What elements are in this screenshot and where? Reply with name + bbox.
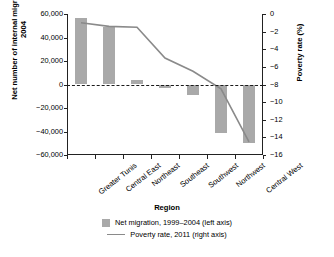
y-tick-mark-right <box>263 32 266 33</box>
y-tick-label-left: 0 <box>15 80 63 89</box>
y-tick-mark-right <box>263 120 266 121</box>
chart-legend: Net migration, 1999–2004 (left axis) Pov… <box>0 218 334 239</box>
x-tick-label: Southwest <box>207 161 240 190</box>
legend-item-net-migration: Net migration, 1999–2004 (left axis) <box>102 218 232 227</box>
y-tick-label-right: −16 <box>270 150 300 159</box>
y-tick-mark-right <box>263 85 266 86</box>
y-tick-label-right: −8 <box>270 80 300 89</box>
y-tick-label-right: −4 <box>270 44 300 53</box>
y-tick-label-right: −12 <box>270 115 300 124</box>
y-tick-mark-right <box>263 49 266 50</box>
poverty-rate-line <box>81 23 249 142</box>
legend-item-poverty-rate: Poverty rate, 2011 (right axis) <box>107 230 226 239</box>
y-tick-label-right: −6 <box>270 62 300 71</box>
x-tick-mark <box>235 155 236 159</box>
x-tick-mark <box>263 155 264 159</box>
y-tick-label-left: 40,000 <box>15 33 63 42</box>
line-swatch-icon <box>107 234 125 235</box>
x-tick-mark <box>207 155 208 159</box>
y-tick-mark-right <box>263 102 266 103</box>
y-tick-mark-right <box>263 137 266 138</box>
y-tick-mark-right <box>263 14 266 15</box>
y-tick-label-right: 0 <box>270 9 300 18</box>
x-tick-mark <box>67 155 68 159</box>
y-tick-label-right: −14 <box>270 132 300 141</box>
x-tick-label: Central West <box>264 161 304 195</box>
y-tick-label-left: −60,000 <box>15 150 63 159</box>
legend-label: Net migration, 1999–2004 (left axis) <box>115 218 232 227</box>
plot-area <box>67 14 263 155</box>
y-tick-label-left: 60,000 <box>15 9 63 18</box>
bar-swatch-icon <box>102 219 110 227</box>
zero-reference-line <box>67 85 263 86</box>
chart-figure: Net number of internal migrants, 1999–20… <box>0 0 334 257</box>
x-tick-label: Southeast <box>178 161 210 189</box>
y-tick-label-left: −40,000 <box>15 127 63 136</box>
x-tick-mark <box>179 155 180 159</box>
y-tick-label-left: −20,000 <box>15 103 63 112</box>
y-tick-label-right: −10 <box>270 97 300 106</box>
x-axis-title: Region <box>0 203 334 212</box>
x-tick-mark <box>151 155 152 159</box>
y-tick-label-right: −2 <box>270 27 300 36</box>
legend-label: Poverty rate, 2011 (right axis) <box>130 230 226 239</box>
y-tick-label-left: 20,000 <box>15 56 63 65</box>
x-tick-mark <box>123 155 124 159</box>
x-tick-mark <box>95 155 96 159</box>
x-tick-label: Northwest <box>234 161 266 189</box>
y-tick-mark-right <box>263 67 266 68</box>
